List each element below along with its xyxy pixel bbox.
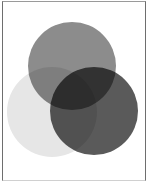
right-circle: [50, 67, 138, 155]
diagram-frame: [2, 1, 146, 181]
